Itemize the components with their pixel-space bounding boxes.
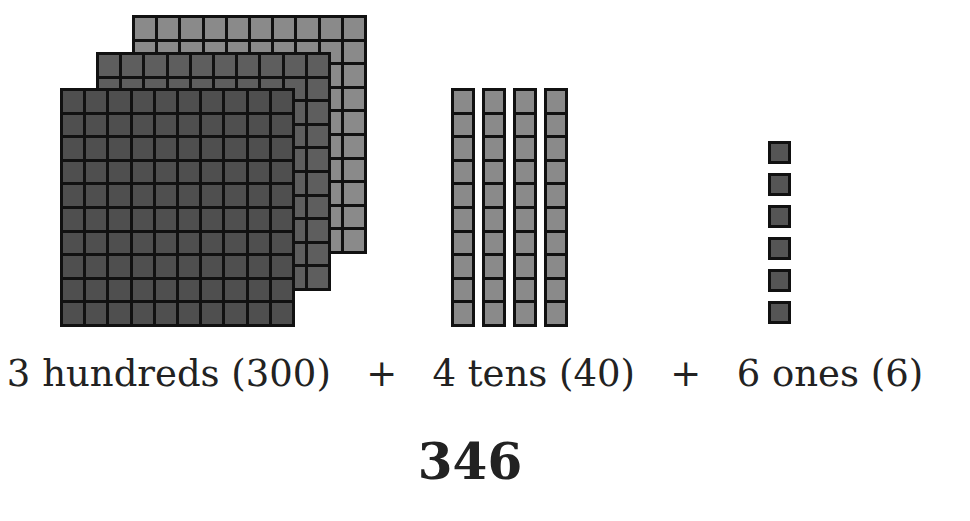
hundreds-label: 3 hundreds (300) — [7, 352, 331, 395]
plus-sign: + — [670, 352, 701, 395]
one-unit — [768, 141, 791, 164]
total-number: 346 — [0, 432, 940, 491]
one-unit — [768, 269, 791, 292]
ten-rod — [544, 88, 568, 327]
tens-label: 4 tens (40) — [432, 352, 635, 395]
ten-rod — [451, 88, 475, 327]
plus-sign: + — [366, 352, 397, 395]
ten-rod — [513, 88, 537, 327]
place-value-caption: 3 hundreds (300) + 4 tens (40) + 6 ones … — [0, 352, 930, 395]
ones-label: 6 ones (6) — [737, 352, 923, 395]
one-unit — [768, 205, 791, 228]
one-unit — [768, 301, 791, 324]
one-unit — [768, 237, 791, 260]
hundred-flat — [60, 88, 295, 327]
ten-rod — [482, 88, 506, 327]
one-unit — [768, 173, 791, 196]
